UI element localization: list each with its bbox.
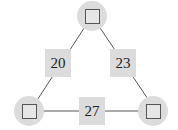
empty-box-bottom-right[interactable] [146,104,161,119]
node-top [77,1,107,31]
node-bottom-left [14,96,44,126]
edge-sum-left: 20 [45,49,71,77]
edge-sum-right: 23 [110,49,136,77]
edge-sum-bottom: 27 [79,97,105,125]
empty-box-bottom-left[interactable] [22,104,37,119]
empty-box-top[interactable] [85,9,100,24]
node-bottom-right [138,96,168,126]
